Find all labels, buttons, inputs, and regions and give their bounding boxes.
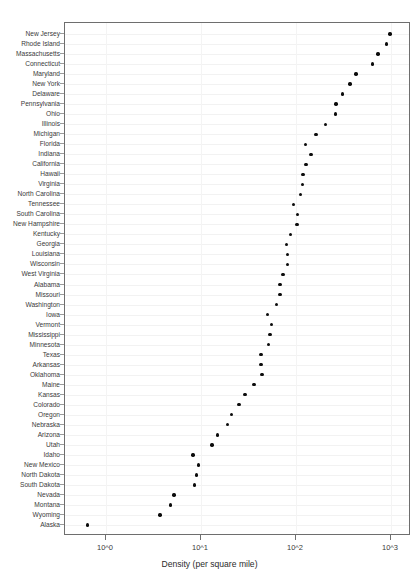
plot-panel [64,22,410,535]
data-point [376,52,379,55]
y-axis-label: New Hampshire [13,220,60,227]
data-point [304,143,307,146]
y-axis-label: Georgia [37,240,60,247]
data-point [299,193,302,196]
data-point [278,283,281,286]
y-axis-label: Connecticut [25,60,60,67]
data-point [86,523,89,526]
y-axis-label: Wisconsin [30,260,60,267]
data-point [371,62,374,65]
y-axis-label: Nebraska [32,420,60,427]
y-axis-label: Mississippi [28,330,60,337]
y-axis-label: North Carolina [17,190,60,197]
data-point [286,263,289,266]
x-axis-tick-label: 10^1 [192,543,208,552]
y-axis-label: Indiana [38,150,60,157]
y-axis-label: Louisiana [32,250,60,257]
y-axis-label: Arkansas [33,360,61,367]
y-axis-label: Illinois [42,120,60,127]
y-axis-label: Delaware [32,90,60,97]
x-axis-title: Density (per square mile) [0,559,419,569]
data-point [304,163,307,166]
data-point [324,123,327,126]
y-axis-label: Montana [34,500,60,507]
data-point [193,483,196,486]
y-axis-label: New Jersey [26,30,60,37]
data-point [270,323,273,326]
x-axis-tick-label: 10^3 [382,543,398,552]
y-axis-label: Oregon [38,410,60,417]
y-axis-label: West Virginia [21,270,60,277]
y-axis-label: Maryland [33,70,60,77]
y-axis-label: New York [32,80,60,87]
y-axis-label: Tennessee [28,200,60,207]
data-point [292,203,295,206]
data-point [289,233,292,236]
y-axis-label: Minnesota [30,340,60,347]
y-axis-label: Kentucky [33,230,60,237]
x-axis-tick [200,535,201,540]
x-axis-tick [390,535,391,540]
y-axis-label: Missouri [35,290,60,297]
x-axis-tick-label: 10^0 [97,543,113,552]
data-point [243,393,246,396]
data-point [348,82,351,85]
data-point [385,42,388,45]
y-axis-label: Kansas [38,390,60,397]
y-axis-label: Hawaii [40,170,60,177]
y-axis-label: Nevada [37,490,60,497]
data-point [259,353,262,356]
y-axis-label: Maine [42,380,60,387]
x-axis-tick [295,535,296,540]
data-point [216,433,219,436]
data-point [226,423,229,426]
data-point [388,32,391,35]
y-axis-label: Colorado [33,400,60,407]
data-point [354,72,357,75]
y-axis-label: Idaho [43,450,60,457]
data-points [65,23,409,534]
y-axis-label: Virginia [38,180,60,187]
data-point [341,92,344,95]
y-axis-labels: New JerseyRhode IslandMassachusettsConne… [0,22,60,535]
data-point [237,403,240,406]
y-axis-label: Vermont [35,320,60,327]
y-axis-label: Oklahoma [30,370,60,377]
data-point [267,343,270,346]
y-axis-label: Wyoming [33,510,60,517]
page-title [0,0,419,4]
data-point [210,443,213,446]
y-axis-label: Alaska [40,520,60,527]
data-point [230,413,233,416]
x-axis-tick [105,535,106,540]
data-point [314,133,317,136]
data-point [285,243,288,246]
y-axis-label: Ohio [46,110,60,117]
data-point [334,102,337,105]
y-axis-label: Pennsylvania [21,100,60,107]
data-point [301,183,304,186]
y-axis-label: Washington [25,300,60,307]
x-axis-tick-label: 10^2 [287,543,303,552]
y-axis-label: North Dakota [21,470,60,477]
data-point [301,173,304,176]
data-point [158,513,161,516]
data-point [252,383,255,386]
data-point [197,463,200,466]
y-axis-label: Texas [43,350,60,357]
y-axis-label: California [32,160,60,167]
y-axis-label: Iowa [46,310,60,317]
data-point [169,503,172,506]
y-axis-label: Rhode Island [21,40,60,47]
data-point [295,223,298,226]
data-point [191,453,194,456]
data-point [334,112,337,115]
x-axis-tick-labels: 10^010^110^210^3 [0,543,419,555]
data-point [260,373,263,376]
data-point [259,363,262,366]
y-axis-label: New Mexico [24,460,60,467]
dot-plot-figure: New JerseyRhode IslandMassachusettsConne… [0,0,419,579]
data-point [281,273,284,276]
y-axis-label: Alabama [34,280,60,287]
y-axis-label: South Dakota [20,480,60,487]
